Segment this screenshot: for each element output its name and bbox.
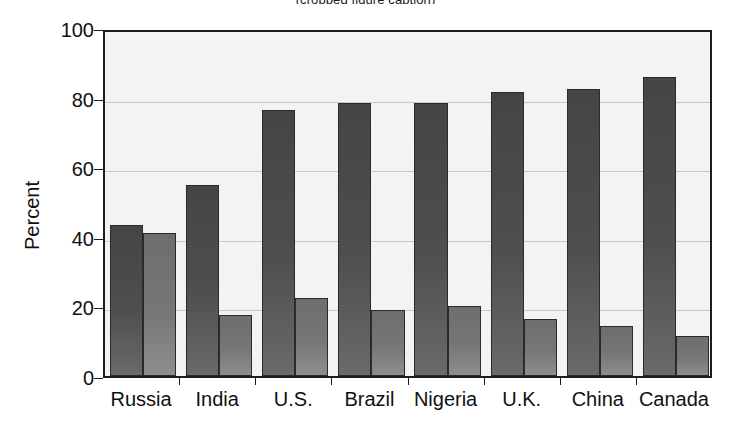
bar-uk-series-b: [524, 319, 557, 376]
x-tick-mark: [255, 378, 256, 385]
y-tick-label: 60: [38, 159, 94, 179]
x-tick-mark: [331, 378, 332, 385]
y-tick-label: 80: [38, 90, 94, 110]
y-tick-mark: [94, 100, 103, 101]
x-tick-label: U.K.: [502, 388, 541, 411]
bar-india-series-b: [219, 315, 252, 376]
y-tick-mark: [94, 378, 103, 379]
x-tick-label: Brazil: [344, 388, 394, 411]
x-tick-label: India: [196, 388, 239, 411]
x-tick-label: Russia: [110, 388, 171, 411]
bar-nigeria-series-b: [448, 306, 481, 376]
y-tick-mark: [94, 239, 103, 240]
y-tick-label: 0: [38, 368, 94, 388]
chart-title-cropped: (cropped figure caption): [0, 0, 731, 4]
gridline: [105, 102, 710, 103]
bar-nigeria-series-a: [414, 103, 447, 376]
y-tick-mark: [94, 169, 103, 170]
x-tick-mark: [179, 378, 180, 385]
bar-uk-series-a: [491, 92, 524, 376]
x-tick-label: Nigeria: [414, 388, 477, 411]
bar-brazil-series-b: [371, 310, 404, 376]
bar-china-series-a: [567, 89, 600, 376]
x-tick-label: China: [572, 388, 624, 411]
bar-us-series-b: [295, 298, 328, 376]
y-tick-mark: [94, 308, 103, 309]
plot-area: [103, 30, 712, 378]
plot-inner: [105, 32, 710, 376]
x-tick-mark: [484, 378, 485, 385]
x-tick-mark: [560, 378, 561, 385]
bar-us-series-a: [262, 110, 295, 376]
bar-russia-series-b: [143, 233, 176, 376]
bar-canada-series-a: [643, 77, 676, 376]
bar-brazil-series-a: [338, 103, 371, 376]
y-tick-mark: [94, 30, 103, 31]
x-tick-mark: [408, 378, 409, 385]
y-tick-label: 40: [38, 229, 94, 249]
bar-india-series-a: [186, 185, 219, 376]
x-tick-label: Canada: [639, 388, 709, 411]
x-tick-mark: [636, 378, 637, 385]
bar-russia-series-a: [110, 225, 143, 376]
bar-canada-series-b: [676, 336, 709, 376]
y-tick-label: 20: [38, 298, 94, 318]
x-tick-label: U.S.: [274, 388, 313, 411]
bar-chart: (cropped figure caption) Percent 0204060…: [0, 0, 731, 425]
y-tick-label: 100: [38, 20, 94, 40]
bar-china-series-b: [600, 326, 633, 376]
gridline: [105, 171, 710, 172]
